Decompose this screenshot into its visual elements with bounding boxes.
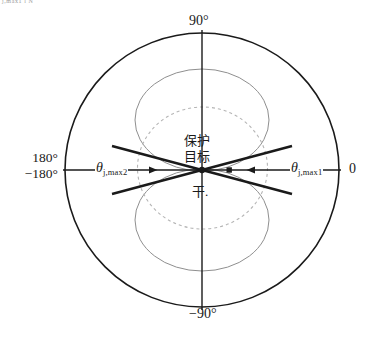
protected-target-label: 保护 目标	[182, 133, 212, 164]
center-point-dot	[199, 167, 205, 173]
axis-label-0: 0	[349, 161, 356, 177]
theta-symbol: θ	[291, 160, 298, 175]
axis-label-minus-90: −90°	[189, 306, 217, 322]
axis-label-minus-180: −180°	[16, 166, 58, 182]
protected-target-line2: 目标	[182, 149, 212, 165]
theta-jmax2-label: θj,max2	[95, 161, 128, 179]
axis-label-90: 90°	[189, 13, 209, 29]
right-pointing-arrowhead	[149, 167, 158, 174]
jammer-label: 干.	[192, 181, 208, 200]
axis-label-180-block: 180° −180°	[16, 150, 58, 182]
theta-symbol: θ	[96, 160, 103, 175]
protected-target-line1: 保护	[182, 133, 212, 149]
axis-label-180: 180°	[16, 150, 58, 166]
theta-jmax1-label: θj,max1	[290, 161, 323, 179]
corner-text-fragment: j,max1 l N	[2, 0, 34, 4]
left-pointing-arrowhead	[247, 167, 256, 174]
figure-canvas: j,max1 l N 90° −90° 180° −180° 0 θj,max2…	[0, 0, 374, 337]
theta-subscript: j,max1	[298, 167, 323, 177]
theta-subscript: j,max2	[103, 167, 128, 177]
jammer-square-marker	[227, 167, 232, 172]
